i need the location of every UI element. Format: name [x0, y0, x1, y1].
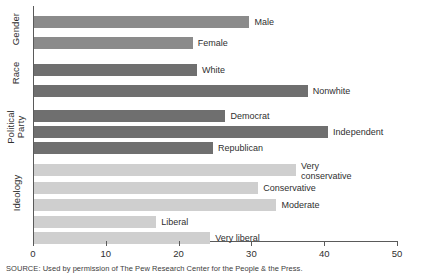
bar-independent[interactable] [34, 126, 328, 138]
group-label-ideology: Ideology [12, 164, 22, 222]
bar-label-conservative: Conservative [263, 184, 316, 194]
x-tick-30 [251, 241, 252, 246]
bar-nonwhite[interactable] [34, 85, 308, 97]
bar-very-conservative[interactable] [34, 164, 296, 176]
bar-very-liberal[interactable] [34, 232, 210, 244]
bar-republican[interactable] [34, 142, 213, 154]
bar-chart: Gender Race Political Party Ideology Mal… [0, 0, 423, 280]
bar-democrat[interactable] [34, 110, 225, 122]
x-tick-10 [106, 241, 107, 246]
x-tick-label-40: 40 [319, 248, 330, 259]
bar-label-nonwhite: Nonwhite [313, 87, 351, 97]
x-tick-20 [179, 241, 180, 246]
x-tick-label-20: 20 [173, 248, 184, 259]
x-tick-50 [397, 241, 398, 246]
bar-white[interactable] [34, 64, 197, 76]
x-tick-40 [324, 241, 325, 246]
bar-label-republican: Republican [218, 144, 263, 154]
x-tick-label-50: 50 [392, 248, 403, 259]
group-label-race: Race [11, 52, 21, 94]
bar-female[interactable] [34, 37, 193, 49]
plot-area: MaleFemaleWhiteNonwhiteDemocratIndepende… [34, 6, 397, 241]
x-tick-label-10: 10 [101, 248, 112, 259]
bar-label-male: Male [254, 18, 274, 28]
bar-moderate[interactable] [34, 199, 276, 211]
x-tick-label-30: 30 [246, 248, 257, 259]
bar-label-female: Female [198, 39, 228, 49]
bar-label-democrat: Democrat [230, 112, 269, 122]
x-tick-label-0: 0 [30, 248, 35, 259]
bar-label-liberal: Liberal [161, 218, 188, 228]
group-label-political-party: Political Party [6, 97, 26, 157]
bar-label-very-conservative: Very conservative [301, 162, 352, 181]
bar-label-white: White [202, 66, 225, 76]
bar-conservative[interactable] [34, 182, 258, 194]
x-tick-0 [33, 241, 34, 246]
bar-label-moderate: Moderate [281, 201, 319, 211]
bar-male[interactable] [34, 16, 249, 28]
bar-liberal[interactable] [34, 216, 156, 228]
group-label-gender: Gender [11, 6, 21, 52]
source-note: SOURCE: Used by permission of The Pew Re… [6, 264, 303, 273]
bar-label-very-liberal: Very liberal [215, 234, 260, 244]
bar-label-independent: Independent [333, 128, 383, 138]
